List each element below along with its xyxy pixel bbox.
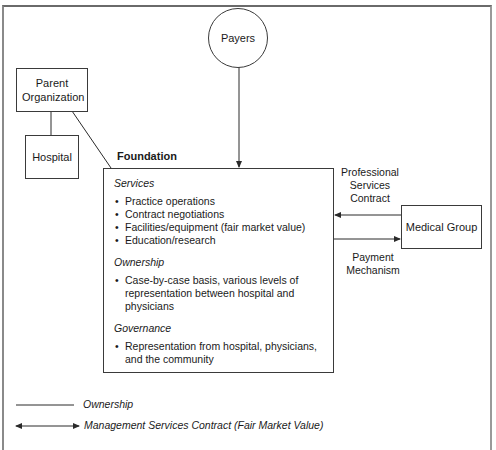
medical-group-node: Medical Group bbox=[401, 205, 482, 249]
list-item: Representation from hospital, physicians… bbox=[114, 340, 323, 366]
list-item: Contract negotiations bbox=[114, 208, 323, 221]
foundation-title: Foundation bbox=[117, 150, 177, 162]
professional-services-label: Professional Services Contract bbox=[340, 166, 400, 205]
list-item: Case-by-case basis, various levels of re… bbox=[114, 274, 323, 313]
section-title: Ownership bbox=[114, 256, 323, 269]
section-title: Services bbox=[114, 177, 323, 190]
parent-organization-label: Parent Organization bbox=[22, 76, 82, 104]
list-item: Practice operations bbox=[114, 195, 323, 208]
list-item: Education/research bbox=[114, 234, 323, 247]
parent-organization-node: Parent Organization bbox=[16, 68, 88, 112]
ownership-section: Ownership Case-by-case basis, various le… bbox=[114, 256, 323, 313]
payers-node: Payers bbox=[208, 8, 268, 68]
payment-mechanism-label: Payment Mechanism bbox=[343, 251, 403, 277]
legend-management-contract: Management Services Contract (Fair Marke… bbox=[84, 419, 323, 431]
medical-group-label: Medical Group bbox=[406, 220, 478, 234]
foundation-node: Services Practice operations Contract ne… bbox=[103, 168, 334, 373]
hospital-label: Hospital bbox=[32, 150, 72, 164]
governance-section: Governance Representation from hospital,… bbox=[114, 322, 323, 366]
section-title: Governance bbox=[114, 322, 323, 335]
list-item: Facilities/equipment (fair market value) bbox=[114, 221, 323, 234]
payers-label: Payers bbox=[221, 32, 255, 44]
services-section: Services Practice operations Contract ne… bbox=[114, 177, 323, 247]
legend-ownership: Ownership bbox=[83, 398, 133, 410]
hospital-node: Hospital bbox=[25, 135, 79, 179]
